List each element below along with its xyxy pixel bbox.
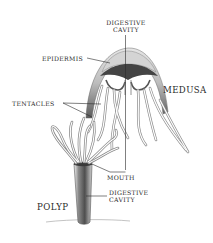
label-digestive-cavity-top-line2: CAVITY xyxy=(102,26,150,33)
label-mouth: MOUTH xyxy=(107,174,135,181)
diagram-canvas: DIGESTIVE CAVITY EPIDERMIS MEDUSA TENTAC… xyxy=(0,0,213,243)
leader-mouth xyxy=(92,164,126,172)
illustration xyxy=(0,0,213,243)
label-tentacles: TENTACLES xyxy=(12,100,55,107)
label-epidermis: EPIDERMIS xyxy=(42,55,83,62)
label-digestive-cavity-bottom: DIGESTIVE CAVITY xyxy=(109,189,148,203)
label-digestive-cavity-bottom-line2: CAVITY xyxy=(109,196,148,203)
label-digestive-cavity-bottom-line1: DIGESTIVE xyxy=(109,189,148,196)
label-polyp: POLYP xyxy=(37,203,68,212)
label-digestive-cavity-top-line1: DIGESTIVE xyxy=(102,19,150,26)
label-medusa: MEDUSA xyxy=(163,86,207,95)
label-digestive-cavity-top: DIGESTIVE CAVITY xyxy=(102,19,150,33)
medusa-illustration xyxy=(86,48,188,152)
leader-tentacles-1 xyxy=(63,103,101,104)
